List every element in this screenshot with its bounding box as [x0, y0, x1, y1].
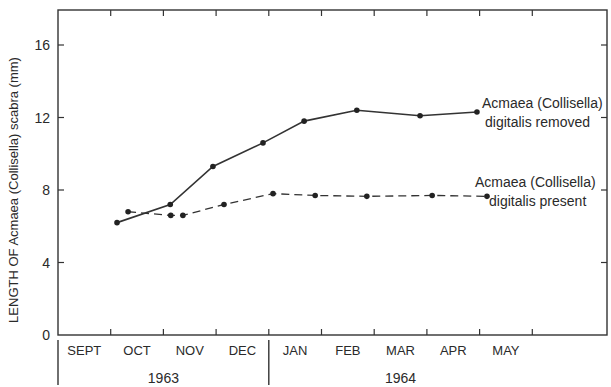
- data-point: [312, 193, 318, 199]
- y-tick-label: 0: [42, 327, 50, 343]
- month-label: OCT: [123, 343, 151, 358]
- data-point: [354, 107, 360, 113]
- y-axis-label: LENGTH OF Acmaea (Collisella) scabra (mm…: [6, 57, 21, 323]
- y-tick-label: 16: [34, 37, 50, 53]
- data-point: [180, 213, 186, 219]
- data-point: [429, 193, 435, 199]
- data-point: [125, 209, 131, 215]
- month-label: JAN: [283, 343, 308, 358]
- month-label: SEPT: [67, 343, 101, 358]
- series-label: Acmaea (Collisella): [475, 174, 596, 190]
- data-point: [221, 202, 227, 208]
- series-label: digitalis present: [489, 193, 586, 209]
- data-point: [167, 202, 173, 208]
- month-label: NOV: [176, 343, 205, 358]
- data-point: [301, 118, 307, 124]
- y-tick-label: 12: [34, 110, 50, 126]
- data-point: [270, 191, 276, 197]
- year-label: 1963: [148, 370, 179, 386]
- plot-frame: [58, 10, 607, 335]
- data-point: [210, 164, 216, 170]
- y-tick-label: 4: [42, 255, 50, 271]
- month-label: APR: [440, 343, 467, 358]
- month-label: DEC: [229, 343, 256, 358]
- month-label: FEB: [335, 343, 360, 358]
- data-point: [168, 213, 174, 219]
- data-point: [260, 140, 266, 146]
- data-point: [364, 194, 370, 200]
- series-label: Acmaea (Collisella): [482, 95, 603, 111]
- y-tick-label: 8: [42, 182, 50, 198]
- month-label: MAY: [492, 343, 520, 358]
- chart: LENGTH OF Acmaea (Collisella) scabra (mm…: [0, 0, 611, 387]
- data-point: [114, 220, 120, 226]
- month-label: MAR: [386, 343, 415, 358]
- series-label: digitalis removed: [485, 114, 590, 130]
- year-label: 1964: [385, 370, 416, 386]
- data-point: [417, 113, 423, 119]
- data-point: [474, 109, 480, 115]
